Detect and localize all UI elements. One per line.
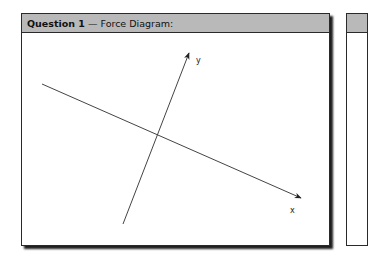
force-diagram-canvas: y x [22, 33, 329, 245]
next-panel-header [347, 14, 367, 33]
force-diagram: y x [22, 33, 329, 245]
question-title: Force Diagram: [101, 18, 174, 29]
panel-header: Question 1 — Force Diagram: [22, 14, 329, 33]
next-question-panel [346, 13, 368, 246]
y-axis-label: y [196, 56, 201, 65]
y-axis-line [123, 53, 189, 224]
title-separator: — [85, 18, 101, 29]
question-panel: Question 1 — Force Diagram: y x [21, 13, 330, 246]
x-axis-line [42, 84, 301, 198]
x-axis-label: x [290, 206, 295, 215]
question-number: Question 1 [27, 18, 85, 29]
